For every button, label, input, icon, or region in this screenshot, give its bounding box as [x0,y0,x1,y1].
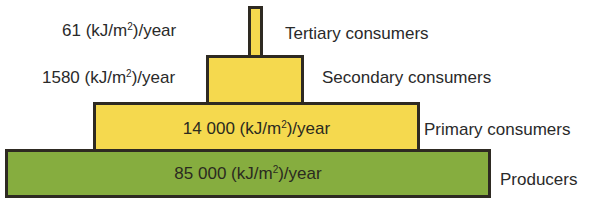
primary-consumers-label: Primary consumers [424,120,570,140]
producers-value: 85 000 [174,164,226,183]
primary-consumers-bar: 14 000 (kJ/m2)/year [93,102,420,152]
producers-bar: 85 000 (kJ/m2)/year [5,149,491,198]
tertiary-consumers-label: Tertiary consumers [285,24,429,44]
primary-value-label: 14 000 (kJ/m2)/year [96,119,417,139]
tertiary-value-label: 61 (kJ/m2)/year [62,21,176,41]
producers-label: Producers [500,170,577,190]
primary-value: 14 000 [183,119,235,138]
secondary-consumers-bar [206,55,304,105]
producers-value-label: 85 000 (kJ/m2)/year [8,164,488,184]
secondary-value-label: 1580 (kJ/m2)/year [42,68,175,88]
tertiary-consumers-bar [248,6,263,58]
secondary-consumers-label: Secondary consumers [322,68,491,88]
secondary-value: 1580 [42,68,80,87]
tertiary-value: 61 [62,21,81,40]
